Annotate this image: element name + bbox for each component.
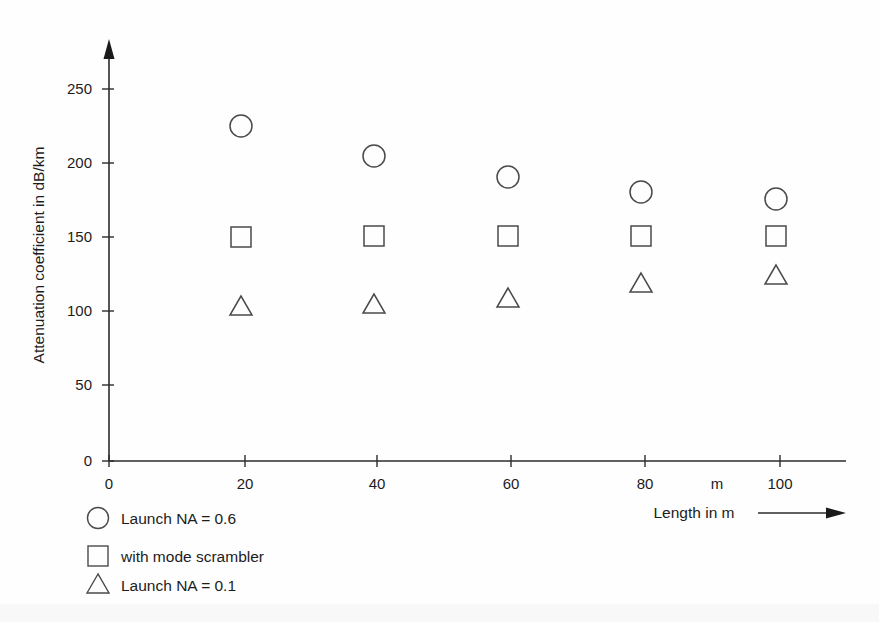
data-point-circle-20 — [230, 115, 252, 137]
legend-label-2: Launch NA = 0.1 — [121, 577, 236, 594]
data-point-circle-100 — [765, 188, 787, 210]
data-point-circle-80 — [630, 181, 652, 203]
triangle-icon — [87, 574, 109, 593]
series-with-mode-scrambler — [231, 226, 786, 247]
y-axis-title: Attenuation coefficient in dB/km — [30, 147, 47, 364]
data-point-square-20 — [231, 227, 251, 247]
legend-label-1: with mode scrambler — [120, 548, 264, 565]
y-axis — [104, 39, 115, 461]
data-point-square-80 — [631, 226, 651, 246]
circle-icon — [88, 508, 109, 529]
x-tick-label-60: 60 — [503, 475, 520, 492]
data-point-circle-40 — [363, 145, 385, 167]
x-tick-label-80: 80 — [637, 475, 654, 492]
data-point-square-40 — [364, 226, 384, 246]
x-tick-label-20: 20 — [237, 475, 254, 492]
data-point-triangle-20 — [230, 296, 252, 315]
chart-page: 250 200 150 100 50 0 Attenuation coeffic… — [0, 0, 879, 622]
x-axis-unit-marker: m — [711, 475, 724, 492]
y-tick-label-200: 200 — [67, 154, 92, 171]
legend-label-0: Launch NA = 0.6 — [121, 510, 236, 527]
series-launch-na-0-6 — [230, 115, 787, 210]
x-axis-title-arrow-icon — [826, 508, 846, 519]
attenuation-scatter-chart: 250 200 150 100 50 0 Attenuation coeffic… — [0, 0, 879, 622]
legend-item-launch-na-0-1: Launch NA = 0.1 — [87, 574, 236, 594]
legend-item-launch-na-0-6: Launch NA = 0.6 — [88, 508, 237, 529]
data-point-circle-60 — [497, 166, 519, 188]
data-point-triangle-60 — [497, 288, 519, 307]
y-axis-arrow-icon — [104, 39, 115, 59]
x-tick-label-40: 40 — [369, 475, 386, 492]
data-point-square-60 — [498, 226, 518, 246]
y-tick-label-150: 150 — [67, 228, 92, 245]
data-point-triangle-40 — [363, 294, 385, 313]
y-axis-tick-labels: 250 200 150 100 50 0 — [67, 80, 92, 469]
chart-legend: Launch NA = 0.6 with mode scrambler Laun… — [87, 508, 264, 595]
square-icon — [88, 546, 108, 566]
y-axis-ticks — [102, 89, 114, 461]
x-axis-title: Length in m — [654, 504, 735, 521]
x-axis-title-group: Length in m — [654, 504, 847, 521]
series-launch-na-0-1 — [230, 265, 787, 315]
y-tick-label-0: 0 — [84, 452, 92, 469]
x-tick-label-0: 0 — [105, 475, 113, 492]
data-point-square-100 — [766, 226, 786, 246]
y-tick-label-50: 50 — [75, 376, 92, 393]
data-point-triangle-80 — [630, 273, 652, 292]
y-tick-label-250: 250 — [67, 80, 92, 97]
x-axis-tick-labels: 0 20 40 60 80 m 100 — [105, 475, 793, 492]
data-point-triangle-100 — [765, 265, 787, 284]
legend-item-with-mode-scrambler: with mode scrambler — [88, 546, 264, 566]
y-tick-label-100: 100 — [67, 302, 92, 319]
x-tick-label-100: 100 — [767, 475, 792, 492]
